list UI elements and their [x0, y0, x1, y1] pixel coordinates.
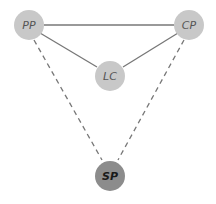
- edges: [34, 25, 184, 160]
- node-sp: SP: [95, 161, 125, 191]
- node-label-lc: LC: [103, 70, 117, 83]
- node-label-pp: PP: [22, 19, 36, 32]
- node-label-sp: SP: [102, 170, 118, 183]
- edge-pp-lc: [40, 33, 97, 67]
- edge-cp-lc: [123, 33, 178, 67]
- node-cp: CP: [174, 10, 204, 40]
- edge-pp-sp: [34, 40, 102, 160]
- node-label-cp: CP: [182, 19, 197, 32]
- edge-cp-sp: [118, 40, 184, 160]
- node-lc: LC: [95, 61, 125, 91]
- diagram-canvas: PP CP LC SP: [0, 0, 216, 204]
- node-pp: PP: [14, 10, 44, 40]
